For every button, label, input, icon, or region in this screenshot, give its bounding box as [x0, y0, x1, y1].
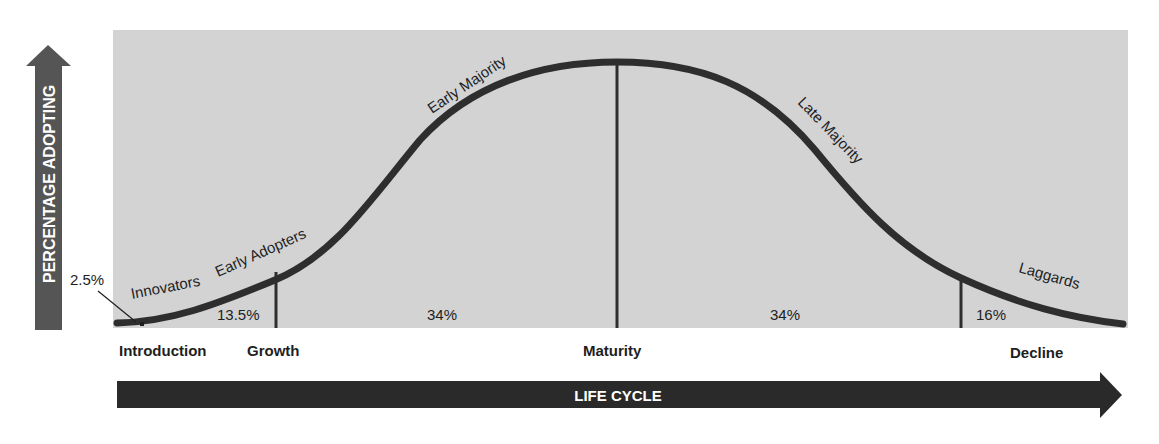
y-axis-arrow: PERCENTAGE ADOPTING	[26, 45, 71, 330]
stage-label-introduction: Introduction	[119, 342, 206, 359]
innovators-pointer-dot	[140, 322, 144, 326]
percentage-laggards: 16%	[976, 306, 1006, 323]
stage-label-growth: Growth	[247, 342, 300, 359]
adoption-lifecycle-chart: PERCENTAGE ADOPTING 2.5% 13.5% 34% 34% 1…	[0, 0, 1159, 444]
y-axis-label: PERCENTAGE ADOPTING	[41, 85, 58, 283]
x-axis-arrow: LIFE CYCLE	[117, 372, 1122, 418]
x-axis-label: LIFE CYCLE	[574, 387, 662, 404]
percentage-late-majority: 34%	[770, 306, 800, 323]
stage-label-decline: Decline	[1010, 344, 1063, 361]
percentage-innovators: 2.5%	[70, 271, 104, 288]
percentage-early-majority: 34%	[427, 306, 457, 323]
percentage-early-adopters: 13.5%	[217, 306, 260, 323]
stage-label-maturity: Maturity	[583, 342, 642, 359]
